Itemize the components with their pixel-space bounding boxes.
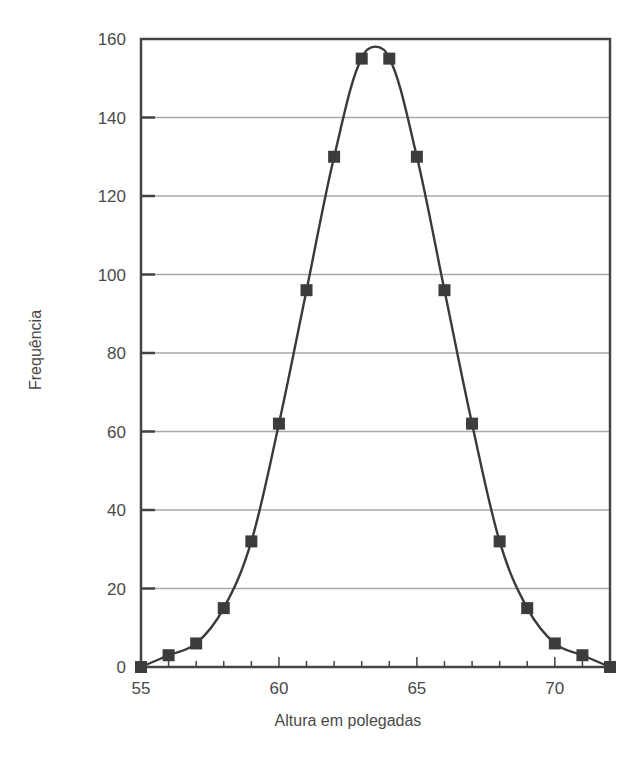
square-marker	[218, 602, 230, 614]
square-marker	[135, 661, 147, 673]
square-marker	[356, 53, 368, 65]
square-marker	[494, 535, 506, 547]
square-marker	[604, 661, 616, 673]
square-marker	[438, 284, 450, 296]
x-tick-label: 60	[269, 679, 288, 698]
square-marker	[411, 151, 423, 163]
square-marker	[549, 637, 561, 649]
square-marker	[466, 418, 478, 430]
square-marker	[576, 649, 588, 661]
y-tick-label: 60	[107, 423, 126, 442]
y-tick-label: 100	[98, 266, 126, 285]
data-line	[141, 47, 610, 667]
y-tick-label: 20	[107, 580, 126, 599]
y-tick-label: 140	[98, 109, 126, 128]
y-tick-label: 0	[117, 658, 126, 677]
square-marker	[383, 53, 395, 65]
y-axis-ticks	[141, 118, 155, 589]
data-markers	[135, 53, 616, 673]
y-tick-label: 80	[107, 344, 126, 363]
square-marker	[301, 284, 313, 296]
square-marker	[245, 535, 257, 547]
y-tick-label: 160	[98, 30, 126, 49]
y-tick-label: 120	[98, 187, 126, 206]
square-marker	[273, 418, 285, 430]
y-axis-title: Frequência	[27, 310, 44, 390]
frequency-line-chart: 020406080100120140160 55606570 Altura em…	[0, 0, 644, 757]
x-tick-label: 70	[545, 679, 564, 698]
x-tick-label: 65	[407, 679, 426, 698]
square-marker	[521, 602, 533, 614]
square-marker	[328, 151, 340, 163]
y-tick-label: 40	[107, 501, 126, 520]
square-marker	[163, 649, 175, 661]
square-marker	[190, 637, 202, 649]
y-axis-tick-labels: 020406080100120140160	[98, 30, 126, 677]
x-axis-tick-labels: 55606570	[132, 679, 565, 698]
x-tick-label: 55	[132, 679, 151, 698]
x-axis-title: Altura em polegadas	[275, 712, 422, 729]
horizontal-gridlines	[141, 118, 610, 589]
x-axis-ticks	[169, 657, 583, 667]
